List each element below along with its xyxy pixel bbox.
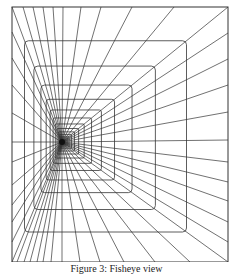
radial-line <box>23 7 62 142</box>
radial-line <box>62 112 228 142</box>
figure-caption: Figure 3: Fisheye view <box>0 263 233 275</box>
radial-line <box>62 7 63 142</box>
nested-rectangle <box>25 41 187 232</box>
radial-line <box>62 59 228 142</box>
radial-line <box>62 142 228 162</box>
fisheye-grid-figure <box>0 0 233 262</box>
radial-line <box>12 142 62 262</box>
vanishing-point <box>59 139 65 145</box>
radial-line <box>12 142 62 205</box>
radial-line <box>62 7 228 142</box>
outer-frame <box>12 7 228 262</box>
radial-line <box>62 140 228 142</box>
radial-line <box>62 142 228 182</box>
radial-line <box>62 7 81 142</box>
radial-line <box>62 7 101 142</box>
perspective-grid-graphic <box>0 0 233 262</box>
radial-line <box>12 142 62 222</box>
radial-line <box>12 85 62 142</box>
radial-line <box>62 142 228 262</box>
radial-line <box>12 58 62 142</box>
radial-line <box>62 142 155 262</box>
radial-line <box>62 33 228 142</box>
radial-line <box>62 7 174 142</box>
radial-line <box>62 142 228 222</box>
radial-line <box>17 142 62 262</box>
radial-line <box>12 113 62 142</box>
